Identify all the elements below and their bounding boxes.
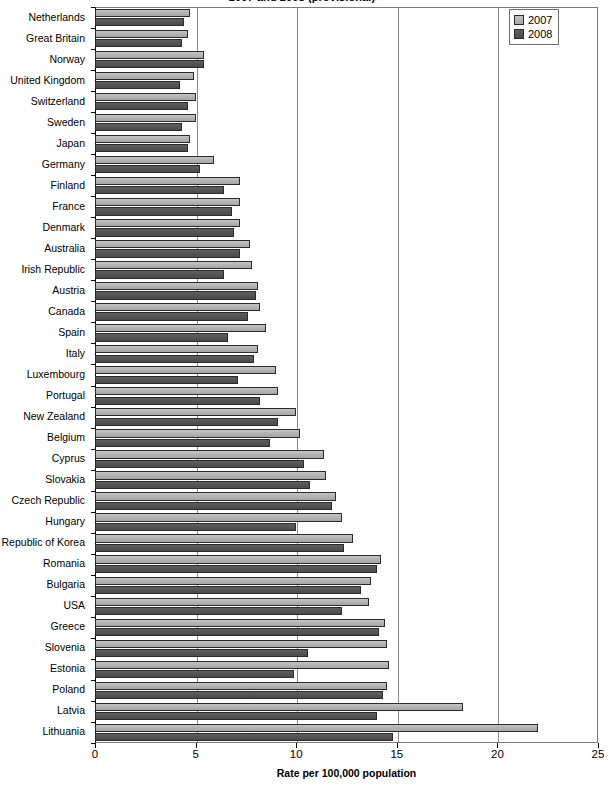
bar-group <box>95 364 598 385</box>
bar-2008 <box>95 123 182 131</box>
bar-2007 <box>95 345 258 353</box>
bar-2008 <box>95 397 260 405</box>
y-axis-label: Belgium <box>0 432 91 443</box>
bar-2008 <box>95 165 200 173</box>
bar-group <box>95 154 598 175</box>
y-axis-label: Switzerland <box>0 96 91 107</box>
bar-2008 <box>95 355 254 363</box>
bar-2007 <box>95 30 188 38</box>
bar-2007 <box>95 387 278 395</box>
bar-2008 <box>95 333 228 341</box>
bar-2007 <box>95 261 252 269</box>
y-axis-tick <box>91 659 95 660</box>
bar-2007 <box>95 682 387 690</box>
bar-group <box>95 386 598 407</box>
y-axis-label: Cyprus <box>0 453 91 464</box>
bar-2008 <box>95 649 308 657</box>
bar-2008 <box>95 502 332 510</box>
bar-group <box>95 322 598 343</box>
y-axis-label: Romania <box>0 558 91 569</box>
bar-2008 <box>95 733 393 741</box>
bar-2008 <box>95 270 224 278</box>
bar-2007 <box>95 9 190 17</box>
y-axis-tick <box>91 722 95 723</box>
y-axis-tick <box>91 638 95 639</box>
y-axis-label: Finland <box>0 180 91 191</box>
y-axis-label: USA <box>0 600 91 611</box>
bar-group <box>95 596 598 617</box>
y-axis-tick <box>91 196 95 197</box>
bar-group <box>95 217 598 238</box>
bar-2008 <box>95 291 256 299</box>
bar-2007 <box>95 219 240 227</box>
bar-2007 <box>95 598 369 606</box>
y-axis-tick <box>91 238 95 239</box>
y-axis-tick <box>91 364 95 365</box>
y-axis-label: Poland <box>0 684 91 695</box>
bar-group <box>95 428 598 449</box>
legend-swatch-icon <box>514 29 524 39</box>
y-axis-tick <box>91 386 95 387</box>
y-axis-label: Czech Republic <box>0 495 91 506</box>
y-axis-label: Norway <box>0 54 91 65</box>
y-axis-tick <box>91 533 95 534</box>
bar-group <box>95 70 598 91</box>
y-axis-tick <box>91 575 95 576</box>
y-axis-tick <box>91 70 95 71</box>
bar-2007 <box>95 114 196 122</box>
bar-2008 <box>95 586 361 594</box>
bar-2008 <box>95 228 234 236</box>
bar-2007 <box>95 51 204 59</box>
bar-2008 <box>95 102 188 110</box>
bar-group <box>95 49 598 70</box>
bar-group <box>95 259 598 280</box>
y-axis-label: Bulgaria <box>0 579 91 590</box>
y-axis-label: Slovakia <box>0 474 91 485</box>
x-axis-tick-labels: 0510152025 <box>0 748 604 764</box>
bar-group <box>95 238 598 259</box>
bar-2008 <box>95 712 377 720</box>
bar-group <box>95 449 598 470</box>
x-axis-tick-label: 15 <box>377 748 417 760</box>
x-axis-tick-label: 25 <box>578 748 609 760</box>
bar-group <box>95 301 598 322</box>
y-axis-tick <box>91 154 95 155</box>
bar-2007 <box>95 661 389 669</box>
bar-2007 <box>95 135 190 143</box>
bar-group <box>95 407 598 428</box>
bar-group <box>95 491 598 512</box>
y-axis-tick <box>91 617 95 618</box>
bar-2008 <box>95 481 310 489</box>
bar-2008 <box>95 544 344 552</box>
y-axis-label: Luxembourg <box>0 369 91 380</box>
y-axis-tick <box>91 449 95 450</box>
bar-group <box>95 680 598 701</box>
bar-2007 <box>95 555 381 563</box>
y-axis-tick <box>91 91 95 92</box>
bar-group <box>95 91 598 112</box>
bar-2008 <box>95 523 296 531</box>
y-axis-label: Sweden <box>0 117 91 128</box>
y-axis-tick <box>91 512 95 513</box>
bar-2008 <box>95 207 232 215</box>
bar-2007 <box>95 177 240 185</box>
y-axis-label: Greece <box>0 621 91 632</box>
bar-2008 <box>95 607 342 615</box>
y-axis-tick <box>91 554 95 555</box>
bar-group <box>95 701 598 722</box>
y-axis-label: Italy <box>0 348 91 359</box>
y-axis-label: Japan <box>0 138 91 149</box>
y-axis-label: Great Britain <box>0 33 91 44</box>
y-axis-tick <box>91 259 95 260</box>
legend-item-2008: 2008 <box>514 27 552 41</box>
bar-2007 <box>95 640 387 648</box>
bar-2008 <box>95 39 182 47</box>
bar-group <box>95 470 598 491</box>
y-axis-label: France <box>0 201 91 212</box>
legend-swatch-icon <box>514 15 524 25</box>
y-axis-tick <box>91 322 95 323</box>
bar-group <box>95 512 598 533</box>
y-axis-label: Spain <box>0 327 91 338</box>
y-axis-label: Latvia <box>0 705 91 716</box>
bar-group <box>95 617 598 638</box>
